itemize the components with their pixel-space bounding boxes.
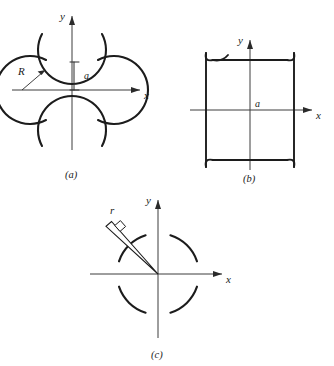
figure-sheet: a R x y (a) <box>0 0 334 366</box>
figure-panel-b: a x y (b) <box>182 22 334 187</box>
dimension-label-a: a <box>84 70 89 81</box>
axes-group-c <box>90 200 222 338</box>
radius-leader-line-R <box>22 72 43 90</box>
y-axis-label-c: y <box>145 194 151 206</box>
x-axis-label-a: x <box>143 89 149 101</box>
y-axis-arrowhead-a <box>69 16 75 25</box>
caption-c: (c) <box>151 349 163 361</box>
radius-leader-R: R <box>17 65 46 90</box>
radius-label-r: r <box>110 204 115 216</box>
x-axis-label-c: x <box>225 273 231 285</box>
radius-leader-arrowhead-R <box>38 70 46 75</box>
figure-panel-a: a R x y (a) <box>0 2 180 187</box>
circle-arc-ur-c <box>170 235 197 261</box>
y-axis-arrowhead-c <box>155 200 161 209</box>
x-axis-label-b: x <box>315 109 321 121</box>
y-axis-label-b: y <box>237 34 243 46</box>
radius-label-R: R <box>17 65 25 77</box>
caption-a: (a) <box>65 169 78 181</box>
y-axis-arrowhead-b <box>247 40 253 49</box>
radius-arrow-r: r <box>106 204 158 274</box>
caption-b: (b) <box>243 173 256 185</box>
radius-arrow-shaft-r <box>106 222 158 275</box>
halfwidth-label-b: a <box>255 98 260 109</box>
dimension-a-gap: a <box>70 62 89 90</box>
circle-arc-ll-c <box>119 287 146 313</box>
x-axis-arrowhead-c <box>213 271 222 277</box>
x-axis-arrowhead-b <box>303 107 312 113</box>
x-axis-arrowhead-a <box>131 87 140 93</box>
circle-arc-lr-c <box>170 287 197 313</box>
y-axis-label-a: y <box>59 10 65 22</box>
figure-panel-c: r x y (c) <box>82 186 267 366</box>
